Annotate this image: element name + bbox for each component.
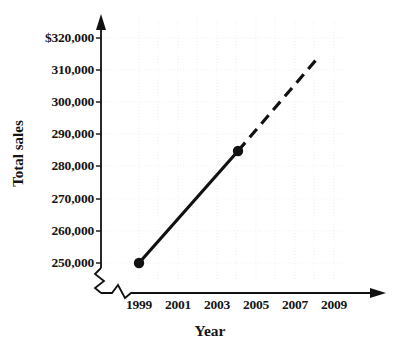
data-point-2004 [233,146,243,156]
y-tick-label-320000: $320,000 [45,31,94,45]
y-tick-label-280000: 280,000 [52,159,94,173]
y-tick-label-270000: 270,000 [52,192,94,206]
y-tick-label-310000: 310,000 [52,63,94,77]
x-tick-label-2005: 2005 [234,298,278,312]
series-dashed-line [238,60,316,151]
y-tick-row: 260,000 [0,224,94,238]
y-axis-title: Total sales [10,99,27,209]
gridlines [102,20,345,280]
y-tick-row: $320,000 [0,31,94,45]
y-axis [95,14,106,293]
x-tick-label-1999: 1999 [117,298,161,312]
y-tick-label-250000: 250,000 [52,256,94,270]
series-solid-line [139,151,238,263]
y-tick-row: 250,000 [0,256,94,270]
x-tick-label-2007: 2007 [273,298,317,312]
y-tick-label-300000: 300,000 [52,95,94,109]
line-chart: $320,000 310,000 300,000 290,000 280,000… [0,0,393,351]
y-tick-label-260000: 260,000 [52,224,94,238]
x-tick-label-2001: 2001 [156,298,200,312]
x-tick-label-2003: 2003 [195,298,239,312]
x-axis-title: Year [150,322,270,340]
y-tick-row: 310,000 [0,63,94,77]
x-tick-label-2009: 2009 [312,298,356,312]
data-point-1999 [134,258,144,268]
y-tick-label-290000: 290,000 [52,127,94,141]
